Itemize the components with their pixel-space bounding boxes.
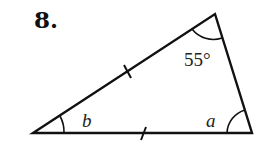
figure: 8. 55° b a — [0, 0, 263, 158]
triangle-diagram: 55° b a — [0, 0, 263, 158]
triangle — [33, 14, 252, 133]
angle-label-right: a — [206, 110, 216, 131]
angle-label-left: b — [82, 110, 92, 131]
angle-label-top: 55° — [184, 49, 211, 70]
angle-arc-top — [192, 29, 222, 39]
angle-arc-left — [60, 116, 64, 133]
angle-arc-right — [227, 110, 245, 133]
